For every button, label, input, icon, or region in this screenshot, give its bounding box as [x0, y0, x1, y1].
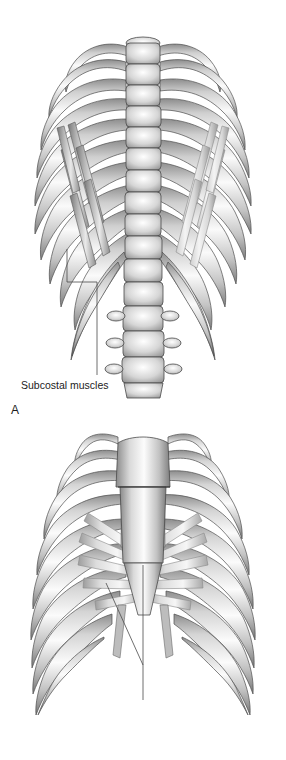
vertebra-l3	[122, 357, 164, 383]
panel-a-illustration	[0, 0, 286, 400]
rib-cage-anterior	[31, 434, 255, 715]
vertebra-t7	[126, 170, 161, 192]
panel-b-illustration	[0, 415, 286, 715]
tp-left-l3	[105, 364, 123, 374]
tp-right-l2	[163, 338, 181, 348]
vertebra-t10	[125, 236, 162, 259]
vertebra-l1	[123, 306, 163, 331]
tp-right-l3	[164, 364, 182, 374]
vertebra-t6	[126, 148, 161, 170]
tp-left-l1	[107, 311, 125, 321]
panel-b-anterior-view: Transversus thoracis muscle B	[0, 415, 286, 760]
subcostal-muscles-label: Subcostal muscles	[21, 380, 109, 391]
right-ribs-anterior	[158, 434, 255, 715]
anatomy-figure: Subcostal muscles A	[0, 0, 286, 760]
vessel-right-lower	[160, 605, 173, 658]
manubrium	[116, 437, 170, 487]
vertebra-t2	[126, 64, 160, 85]
panel-a-posterior-view: Subcostal muscles A	[0, 0, 286, 420]
vertebra-l4	[124, 383, 163, 398]
rib-cage-posterior	[35, 37, 251, 398]
vertebra-t11	[124, 259, 162, 282]
left-ribs-anterior	[31, 434, 128, 715]
vertebra-t9	[125, 214, 161, 236]
sternum-body	[120, 487, 166, 563]
tp-left-l2	[106, 338, 124, 348]
vertebra-t5	[126, 127, 161, 148]
vertebra-l2	[123, 331, 164, 357]
vertebra-t3	[126, 85, 160, 106]
vertebra-t12	[124, 282, 163, 306]
vertebra-t4	[126, 106, 161, 127]
vertebra-t1	[126, 43, 160, 64]
vertebra-t8	[125, 192, 161, 214]
tp-right-l1	[161, 311, 179, 321]
